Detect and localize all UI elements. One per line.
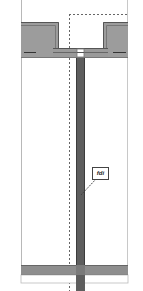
drawing-canvas: fdi bbox=[0, 0, 143, 291]
column-joint bbox=[77, 49, 84, 57]
callout-label: fdi bbox=[93, 168, 108, 179]
vertical-column bbox=[76, 58, 85, 291]
callout-label-text: fdi bbox=[93, 168, 108, 179]
bottom-beam bbox=[21, 265, 128, 291]
